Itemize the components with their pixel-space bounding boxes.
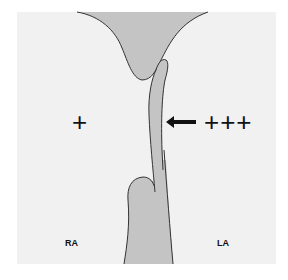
right-atrium-pressure: + [72,109,88,135]
arrow-left-icon [166,116,196,128]
left-atrium-pressure: +++ [204,109,253,135]
left-atrium-label: LA [217,239,229,248]
right-atrium-label: RA [65,239,78,248]
atrial-septum-diagram [0,0,288,280]
